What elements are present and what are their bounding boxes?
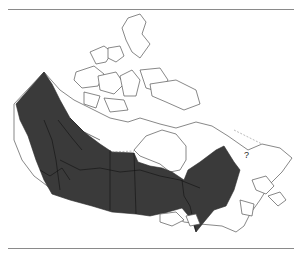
- range-map: ?: [0, 0, 305, 258]
- bottom-rule: [8, 248, 294, 249]
- uncertain-range-marker: ?: [244, 150, 249, 160]
- boundary-dashed: [234, 130, 262, 144]
- arctic-archipelago: [74, 14, 200, 112]
